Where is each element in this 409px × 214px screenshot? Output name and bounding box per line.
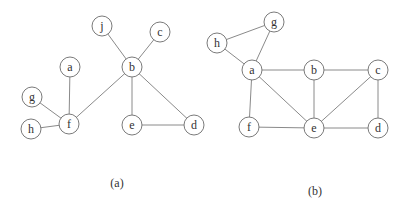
graph-a-nodes: jcbagfhed — [21, 16, 204, 139]
node-a: a — [60, 57, 80, 77]
node-h: h — [207, 33, 227, 53]
node-e: e — [304, 118, 324, 138]
node-label: c — [375, 63, 380, 77]
graph-diagram: jcbagfhed (a) ghabcfed (b) — [0, 0, 409, 214]
node-c: c — [368, 60, 388, 80]
node-c: c — [150, 22, 170, 42]
node-b: b — [122, 57, 142, 77]
node-d: d — [368, 118, 388, 138]
graph-a: jcbagfhed (a) — [21, 16, 204, 190]
edge-c-e — [314, 70, 378, 128]
graph-b-caption: (b) — [308, 184, 322, 198]
node-label: c — [157, 25, 162, 39]
node-label: h — [28, 122, 34, 136]
node-label: g — [271, 15, 277, 29]
node-label: d — [375, 121, 381, 135]
node-g: g — [22, 87, 42, 107]
node-a: a — [242, 60, 262, 80]
node-label: b — [311, 63, 317, 77]
node-label: a — [67, 60, 73, 74]
node-label: f — [67, 117, 71, 131]
node-label: b — [129, 60, 135, 74]
edge-a-e — [252, 70, 314, 128]
node-label: e — [129, 118, 134, 132]
node-d: d — [184, 115, 204, 135]
graph-b-edges — [217, 22, 378, 128]
node-h: h — [21, 119, 41, 139]
node-label: f — [247, 120, 251, 134]
edge-b-f — [69, 67, 132, 124]
graph-a-caption: (a) — [110, 176, 123, 190]
node-b: b — [304, 60, 324, 80]
node-j: j — [92, 16, 112, 36]
node-label: a — [249, 63, 255, 77]
node-label: h — [214, 36, 220, 50]
graph-b: ghabcfed (b) — [207, 12, 388, 198]
edge-b-d — [132, 67, 194, 125]
node-label: e — [311, 121, 316, 135]
node-g: g — [264, 12, 284, 32]
node-label: j — [99, 19, 103, 33]
node-label: d — [191, 118, 197, 132]
graph-a-edges — [31, 26, 194, 129]
node-f: f — [239, 117, 259, 137]
node-e: e — [122, 115, 142, 135]
node-f: f — [59, 114, 79, 134]
graph-b-nodes: ghabcfed — [207, 12, 388, 138]
node-label: g — [29, 90, 35, 104]
